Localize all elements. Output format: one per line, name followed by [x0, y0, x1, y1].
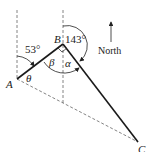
label-143: 143° — [65, 33, 86, 45]
bearing-diagram: 53° B 143° North β α θ A C — [0, 0, 156, 152]
label-alpha: α — [65, 57, 71, 69]
point-label-a: A — [5, 78, 13, 90]
point-label-b: B — [54, 33, 61, 45]
label-53: 53° — [25, 43, 40, 55]
point-label-c: C — [138, 143, 146, 152]
label-theta: θ — [26, 72, 32, 84]
segment-bc — [63, 44, 138, 142]
angle-arc-53 — [17, 56, 34, 66]
segment-ac — [17, 79, 138, 142]
compass-label: North — [98, 45, 121, 56]
label-beta: β — [48, 56, 55, 68]
